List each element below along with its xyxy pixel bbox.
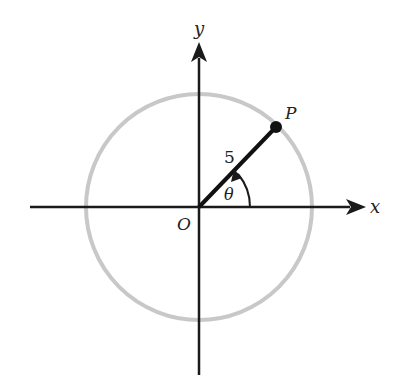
radius-line: [199, 127, 276, 207]
angle-label: θ: [224, 185, 234, 204]
origin-label: O: [177, 214, 191, 234]
point-p: [270, 121, 282, 133]
angle-arc: [238, 174, 250, 207]
x-axis-label: x: [370, 196, 380, 217]
point-label: P: [284, 103, 297, 123]
diagram-canvas: y x O P 5 θ: [0, 0, 398, 391]
y-axis-label: y: [193, 18, 205, 39]
radius-label: 5: [224, 147, 235, 167]
